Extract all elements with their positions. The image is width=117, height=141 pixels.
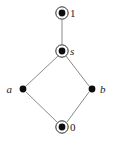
node-s bbox=[56, 45, 68, 57]
node-b bbox=[89, 86, 96, 93]
node-dot-s bbox=[59, 48, 66, 55]
labels-group: 1sab0 bbox=[7, 7, 107, 133]
edge-a-zero bbox=[26, 92, 57, 122]
edges-group bbox=[26, 20, 89, 122]
node-a bbox=[20, 86, 27, 93]
nodes-group bbox=[20, 7, 96, 133]
edge-s-a bbox=[26, 56, 58, 86]
node-label-zero: 0 bbox=[70, 121, 76, 133]
edge-s-b bbox=[66, 56, 89, 86]
node-label-a: a bbox=[7, 83, 13, 95]
node-dot-a bbox=[20, 86, 27, 93]
node-zero bbox=[56, 121, 68, 133]
node-label-one: 1 bbox=[70, 7, 76, 19]
node-label-b: b bbox=[100, 83, 106, 95]
node-label-s: s bbox=[70, 45, 74, 57]
node-dot-zero bbox=[59, 124, 66, 131]
node-dot-one bbox=[59, 10, 66, 17]
node-dot-b bbox=[89, 86, 96, 93]
lattice-diagram: 1sab0 bbox=[0, 0, 117, 141]
edge-b-zero bbox=[67, 92, 89, 122]
node-one bbox=[56, 7, 68, 19]
lattice-canvas: 1sab0 bbox=[0, 0, 117, 141]
